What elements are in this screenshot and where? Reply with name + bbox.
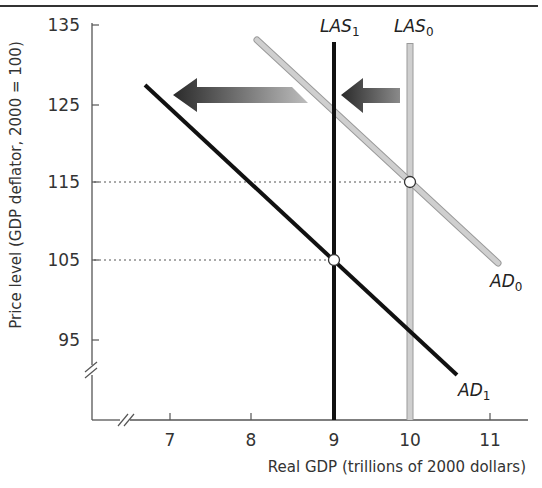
las0-label: LAS0 xyxy=(394,16,434,39)
y-tick-115: 115 xyxy=(48,172,80,192)
y-axis-break xyxy=(85,362,97,372)
y-axis-title: Price level (GDP deflator, 2000 = 100) xyxy=(7,41,25,329)
x-tick-8: 8 xyxy=(246,430,257,450)
x-axis-title: Real GDP (trillions of 2000 dollars) xyxy=(268,458,526,476)
x-tick-9: 9 xyxy=(329,430,340,450)
equilibrium-point-initial xyxy=(405,177,416,188)
las1-label: LAS1 xyxy=(320,16,360,39)
ad0-curve xyxy=(257,40,498,263)
x-axis: 7 8 9 10 11 Real GDP (trillions of 2000 … xyxy=(92,413,528,476)
as-ad-chart: 135 125 115 105 95 Price level (GDP defl… xyxy=(0,0,542,488)
las-shift-arrow xyxy=(341,78,400,113)
x-tick-11: 11 xyxy=(479,430,501,450)
ad-shift-arrow xyxy=(173,78,308,112)
equilibrium-point-new xyxy=(329,255,340,266)
x-tick-10: 10 xyxy=(399,430,421,450)
y-axis: 135 125 115 105 95 Price level (GDP defl… xyxy=(7,15,99,420)
y-tick-95: 95 xyxy=(58,330,80,350)
y-tick-105: 105 xyxy=(48,250,80,270)
y-tick-125: 125 xyxy=(48,95,80,115)
ad0-label: AD0 xyxy=(489,271,522,294)
x-tick-7: 7 xyxy=(165,430,176,450)
y-tick-135: 135 xyxy=(48,15,80,35)
ad1-label: AD1 xyxy=(457,380,490,403)
